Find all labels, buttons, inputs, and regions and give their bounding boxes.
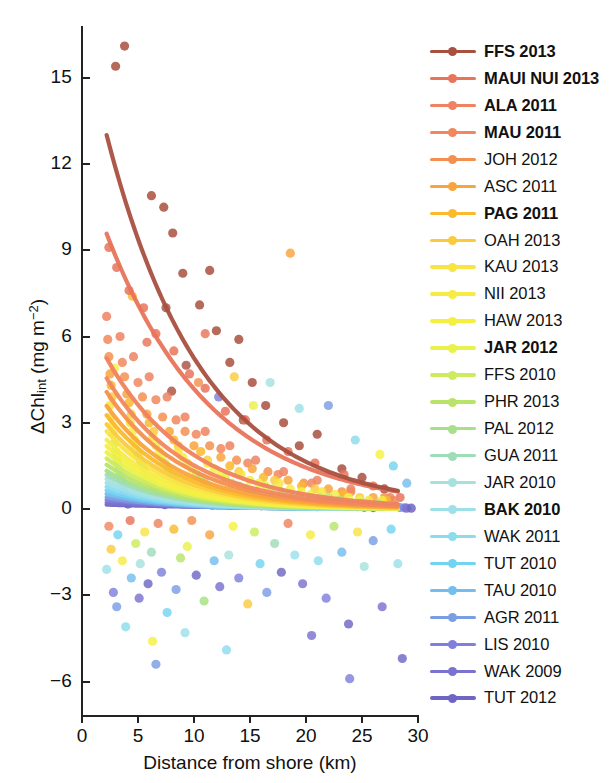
legend-item-label: FFS 2013 — [484, 42, 556, 61]
scatter-point — [286, 249, 295, 258]
scatter-point — [133, 378, 142, 387]
scatter-point — [307, 631, 316, 640]
scatter-point — [113, 530, 122, 539]
legend-color-swatch — [430, 152, 476, 166]
scatter-point — [127, 573, 136, 582]
legend-item[interactable]: BAK 2010 — [430, 496, 616, 523]
legend-item[interactable]: PHR 2013 — [430, 388, 616, 415]
legend-item[interactable]: TUT 2010 — [430, 550, 616, 577]
legend-item[interactable]: LIS 2010 — [430, 631, 616, 658]
scatter-point — [135, 594, 144, 603]
legend-marker-icon — [448, 317, 457, 326]
scatter-point — [102, 312, 111, 321]
scatter-point — [169, 346, 178, 355]
legend-item[interactable]: MAUI NUI 2013 — [430, 65, 616, 92]
legend-item-label: ALA 2011 — [484, 96, 557, 115]
legend-item-label: MAU 2011 — [484, 123, 561, 142]
scatter-point — [314, 556, 323, 565]
legend-marker-icon — [448, 452, 457, 461]
scatter-point — [407, 504, 416, 513]
legend-color-swatch — [430, 260, 476, 274]
x-tick-mark — [193, 715, 195, 723]
legend-item[interactable]: JAR 2010 — [430, 469, 616, 496]
scatter-point — [143, 579, 152, 588]
scatter-point — [248, 464, 257, 473]
scatter-point — [344, 619, 353, 628]
legend-item-label: OAH 2013 — [484, 231, 560, 250]
scatter-point — [158, 412, 167, 421]
legend-marker-icon — [448, 263, 457, 272]
legend-item-label: MAUI NUI 2013 — [484, 69, 599, 88]
legend-item[interactable]: WAK 2009 — [430, 658, 616, 685]
legend-marker-icon — [448, 398, 457, 407]
legend-marker-icon — [448, 613, 457, 622]
scatter-point — [345, 674, 354, 683]
x-tick-label: 15 — [220, 725, 280, 747]
legend-item[interactable]: HAW 2013 — [430, 307, 616, 334]
x-tick-mark — [305, 715, 307, 723]
legend-item[interactable]: FFS 2010 — [430, 361, 616, 388]
legend-marker-icon — [448, 694, 457, 703]
x-tick-mark — [361, 715, 363, 723]
legend-item[interactable]: AGR 2011 — [430, 604, 616, 631]
legend-item[interactable]: GUA 2011 — [430, 442, 616, 469]
scatter-point — [322, 594, 331, 603]
scatter-point — [313, 430, 322, 439]
scatter-point — [138, 392, 147, 401]
scatter-point — [224, 550, 233, 559]
legend-item[interactable]: PAG 2011 — [430, 200, 616, 227]
scatter-point — [192, 430, 201, 439]
scatter-point — [229, 522, 238, 531]
legend-item-label: JAR 2010 — [484, 473, 556, 492]
scatter-point — [196, 447, 205, 456]
scatter-point — [324, 401, 333, 410]
scatter-point — [248, 378, 257, 387]
scatter-point — [216, 444, 225, 453]
y-tick-label: 0 — [20, 497, 72, 519]
legend-color-swatch — [430, 341, 476, 355]
legend-item[interactable]: ALA 2011 — [430, 92, 616, 119]
scatter-point — [351, 435, 360, 444]
legend-marker-icon — [448, 532, 457, 541]
legend-color-swatch — [430, 691, 476, 705]
legend-item[interactable]: TUT 2012 — [430, 685, 616, 712]
legend-marker-icon — [448, 505, 457, 514]
legend-item[interactable]: KAU 2013 — [430, 254, 616, 281]
legend-item-label: PAG 2011 — [484, 204, 558, 223]
legend-color-swatch — [430, 287, 476, 301]
legend-item-label: NII 2013 — [484, 284, 546, 303]
legend-marker-icon — [448, 559, 457, 568]
scatter-point — [205, 530, 214, 539]
legend-item[interactable]: FFS 2013 — [430, 38, 616, 65]
y-axis-label: ΔChlint (mg m−2) — [26, 237, 49, 497]
legend-item[interactable]: PAL 2012 — [430, 415, 616, 442]
legend-item-label: ASC 2011 — [484, 177, 557, 196]
scatter-point — [145, 372, 154, 381]
legend-item-label: HAW 2013 — [484, 311, 562, 330]
legend-item[interactable]: JOH 2012 — [430, 146, 616, 173]
legend-item-label: TUT 2010 — [484, 554, 556, 573]
legend-item[interactable]: MAU 2011 — [430, 119, 616, 146]
legend-item[interactable]: ASC 2011 — [430, 173, 616, 200]
legend-item[interactable]: TAU 2010 — [430, 577, 616, 604]
scatter-point — [212, 326, 221, 335]
scatter-point — [118, 358, 127, 367]
scatter-point — [112, 602, 121, 611]
legend-item[interactable]: OAH 2013 — [430, 227, 616, 254]
scatter-point — [180, 628, 189, 637]
x-tick-mark — [249, 715, 251, 723]
legend-item[interactable]: NII 2013 — [430, 280, 616, 307]
legend-color-swatch — [430, 206, 476, 220]
legend-item-label: FFS 2010 — [484, 365, 556, 384]
scatter-point — [199, 596, 208, 605]
x-tick-label: 30 — [388, 725, 448, 747]
scatter-point — [225, 358, 234, 367]
scatter-point — [216, 453, 225, 462]
scatter-point — [398, 654, 407, 663]
legend-color-swatch — [430, 98, 476, 112]
legend-item-label: PHR 2013 — [484, 392, 559, 411]
legend-color-swatch — [430, 422, 476, 436]
legend-marker-icon — [448, 640, 457, 649]
legend-item[interactable]: JAR 2012 — [430, 334, 616, 361]
legend-item[interactable]: WAK 2011 — [430, 523, 616, 550]
